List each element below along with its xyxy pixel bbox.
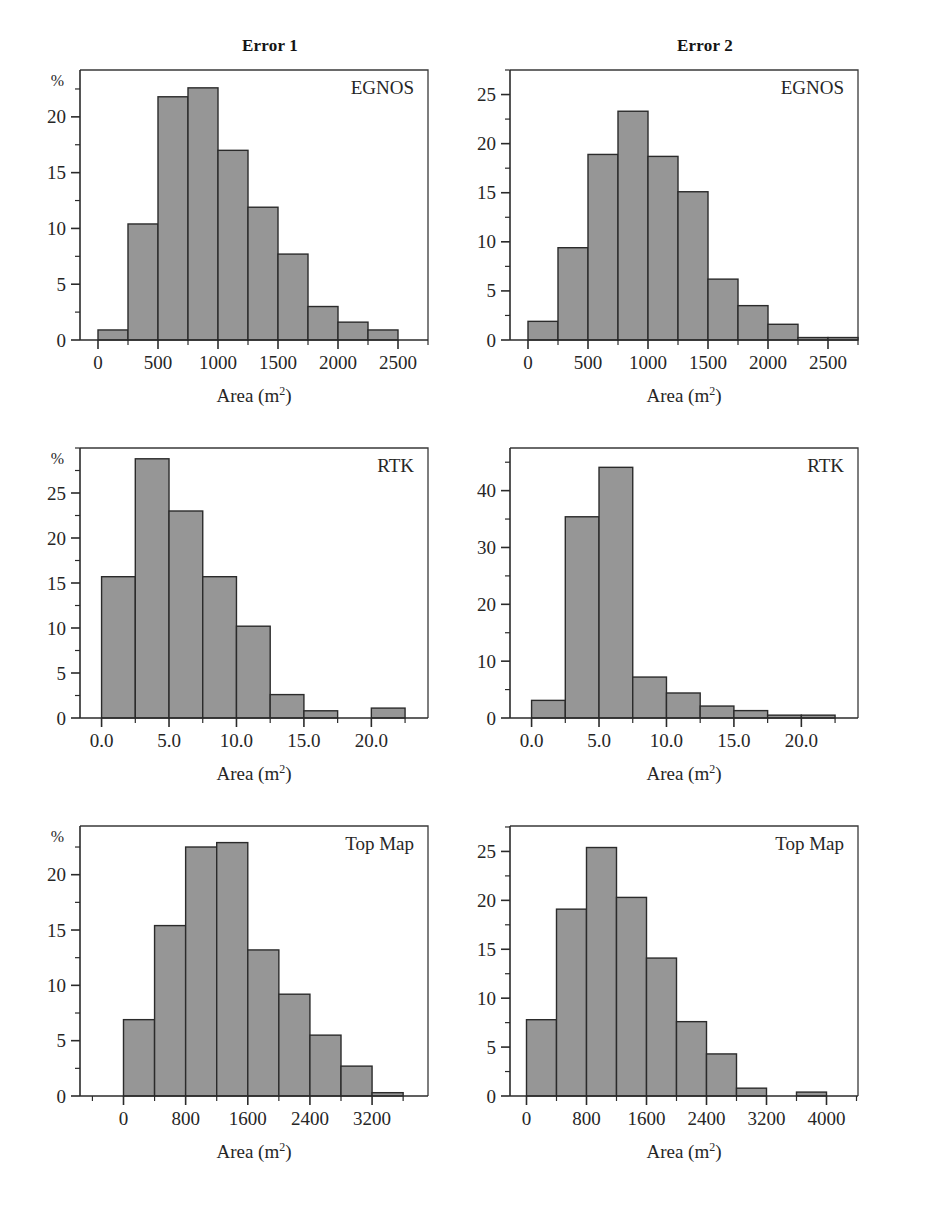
x-tick-label: 2500 [379,352,417,373]
x-tick-label: 3200 [748,1108,786,1129]
y-axis-ticks: 0510152025 [47,448,80,729]
histogram-bar [98,330,128,340]
figure-root: Error 1 Error 2 050010001500200025000510… [0,0,946,1208]
y-tick-label: 20 [47,864,66,885]
x-tick-label: 2400 [688,1108,726,1129]
y-axis-ticks: 05101520 [47,847,80,1106]
x-tick-label: 500 [574,352,603,373]
histogram-bar [734,711,768,718]
y-tick-label: 20 [47,528,66,549]
x-tick-label: 15.0 [717,730,750,751]
x-axis-title-text: Area (m2) [646,762,721,785]
y-axis-percent-label: % [51,72,64,89]
x-tick-label: 15.0 [287,730,320,751]
histogram-bar [371,708,405,718]
histogram-bar [236,626,270,718]
bar-series-rtk-error2 [532,467,835,718]
histogram-bar [707,1054,737,1096]
y-tick-label: 0 [487,330,497,351]
y-tick-label: 10 [477,651,496,672]
y-tick-label: 25 [477,841,496,862]
x-axis-title-text: Area (m2) [646,384,721,407]
histogram-bar [310,1035,341,1096]
histogram-bar [338,322,368,340]
x-axis-title: Area (m2) [216,1140,291,1163]
histogram-bar [203,577,237,718]
x-tick-label: 10.0 [220,730,253,751]
y-axis-ticks: 0510152025 [477,827,510,1107]
chart-panel-rtk-error2: 0.05.010.015.020.0010203040RTKArea (m2) [452,430,882,808]
plot-area-egnos-error1: 0500100015002000250005101520%EGNOS [47,70,428,373]
y-tick-label: 5 [57,663,67,684]
x-axis-ticks: 0.05.010.015.020.0 [90,718,405,751]
x-tick-label: 2500 [809,352,847,373]
series-label: Top Map [775,833,844,854]
y-axis-ticks: 0510152025 [477,70,510,351]
x-axis-title-text: Area (m2) [646,1140,721,1163]
x-axis-title-text: Area (m2) [216,1140,291,1163]
histogram-bar [527,1020,557,1096]
histogram-bar [217,843,248,1096]
x-axis-title: Area (m2) [646,384,721,407]
plot-area-rtk-error1: 0.05.010.015.020.00510152025%RTK [47,448,428,751]
series-label: EGNOS [351,77,414,98]
histogram-bar [248,207,278,340]
histogram-bar [558,248,588,340]
y-tick-label: 25 [477,84,496,105]
histogram-bar [158,97,188,340]
x-tick-label: 800 [171,1108,200,1129]
x-tick-label: 0.0 [520,730,544,751]
x-tick-label: 1600 [229,1108,267,1129]
histogram-bar [737,1088,767,1096]
x-axis-ticks: 08001600240032004000 [522,1096,857,1129]
histogram-bar [633,677,667,718]
histogram-bar [124,1020,155,1096]
histogram-bar [565,517,599,718]
x-tick-label: 1500 [259,352,297,373]
x-axis-ticks: 0800160024003200 [92,1096,403,1129]
x-tick-label: 0 [522,1108,532,1129]
y-tick-label: 0 [487,1086,497,1107]
x-tick-label: 3200 [353,1108,391,1129]
histogram-bar [588,154,618,340]
x-tick-label: 2000 [319,352,357,373]
y-tick-label: 15 [477,939,496,960]
x-tick-label: 0 [523,352,533,373]
histogram-bar [708,279,738,340]
chart-panel-egnos-error2: 050010001500200025000510152025EGNOSArea … [452,52,882,430]
y-tick-label: 20 [477,133,496,154]
chart-panel-egnos-error1: 0500100015002000250005101520%EGNOSArea (… [22,52,452,430]
bar-series-topmap-error1 [124,843,404,1096]
plot-area-topmap-error2: 080016002400320040000510152025Top Map [477,826,858,1129]
histogram-bar [278,254,308,340]
histogram-bar [738,306,768,340]
y-tick-label: 0 [57,708,67,729]
y-tick-label: 20 [47,106,66,127]
y-tick-label: 15 [47,920,66,941]
histogram-bar [186,847,217,1096]
x-axis-ticks: 05001000150020002500 [523,340,858,373]
x-tick-label: 2000 [749,352,787,373]
x-tick-label: 1000 [199,352,237,373]
histogram-bar [666,693,700,718]
y-tick-label: 30 [477,537,496,558]
x-axis-title: Area (m2) [216,762,291,785]
histogram-bar [308,307,338,340]
y-tick-label: 10 [47,618,66,639]
histogram-bar [218,150,248,340]
y-tick-label: 20 [477,594,496,615]
bar-series-egnos-error1 [98,88,398,340]
plot-area-rtk-error2: 0.05.010.015.020.0010203040RTK [477,448,858,751]
series-label: EGNOS [781,77,844,98]
histogram-bar [279,994,310,1096]
histogram-bar [618,111,648,340]
chart-panel-topmap-error1: 080016002400320005101520%Top MapArea (m2… [22,808,452,1186]
histogram-bar [188,88,218,340]
histogram-bar [135,459,169,718]
x-axis-title-text: Area (m2) [216,762,291,785]
series-label: Top Map [345,833,414,854]
histogram-bar [648,156,678,340]
x-tick-label: 20.0 [355,730,388,751]
histogram-bar [768,324,798,340]
x-tick-label: 2400 [291,1108,329,1129]
